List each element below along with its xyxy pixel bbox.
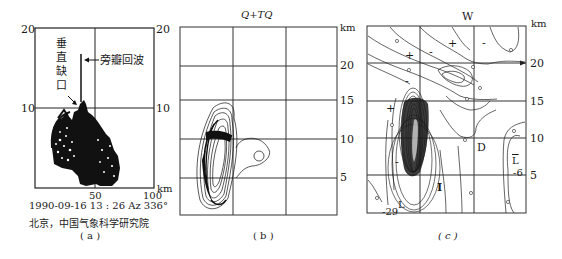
panel-c-ytick-20: 20 bbox=[530, 58, 544, 69]
marker-plus: + bbox=[448, 38, 457, 49]
marker-minus: - bbox=[429, 47, 433, 58]
marker-L-bar: L bbox=[512, 155, 519, 166]
panel-c-unit: km bbox=[531, 18, 547, 29]
marker-minus: - bbox=[482, 38, 486, 49]
marker-plus: + bbox=[405, 50, 414, 61]
panel-c-plot bbox=[0, 0, 562, 259]
marker-plus: + bbox=[386, 103, 395, 114]
panel-c-ytick-5: 5 bbox=[530, 170, 537, 181]
marker-minus: - bbox=[405, 76, 409, 87]
marker-neg6: -6 bbox=[513, 167, 523, 178]
marker-neg29: -29 bbox=[382, 206, 398, 217]
panel-c-caption: ( c ) bbox=[438, 230, 458, 241]
panel-c-ytick-10: 10 bbox=[530, 133, 544, 144]
w-contours bbox=[368, 27, 525, 213]
marker-minus: - bbox=[395, 157, 399, 168]
panel-c-ytick-15: 15 bbox=[530, 96, 544, 107]
panel-c-title: W bbox=[462, 11, 473, 22]
marker-D: D bbox=[477, 142, 486, 153]
marker-L: L bbox=[398, 199, 405, 210]
marker-I: I bbox=[437, 182, 442, 193]
